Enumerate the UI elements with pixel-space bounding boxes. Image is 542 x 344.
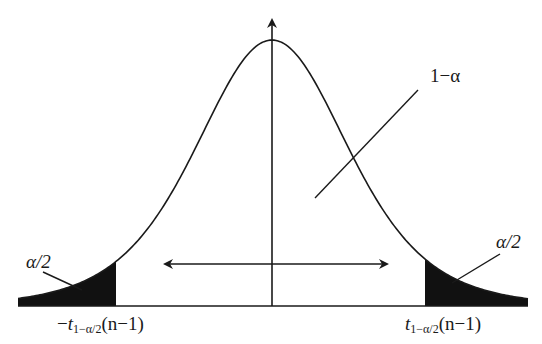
right-critical-arg: (n−1) — [439, 313, 481, 335]
right-tail-leader — [452, 254, 500, 283]
right-tail-label: α/2 — [496, 231, 521, 252]
right-critical-sub: 1−α/2 — [410, 322, 438, 336]
t-distribution-diagram: 1−α α/2 α/2 −t1−α/2(n−1) t1−α/2(n−1) — [0, 0, 542, 344]
left-critical-sub: 1−α/2 — [73, 322, 101, 336]
left-critical-sign: − — [57, 313, 68, 334]
right-critical-value-label: t1−α/2(n−1) — [405, 313, 481, 336]
left-tail-label: α/2 — [26, 251, 51, 272]
left-critical-arg: (n−1) — [101, 313, 143, 335]
right-tail-region — [425, 259, 528, 306]
left-critical-value-label: −t1−α/2(n−1) — [57, 313, 144, 336]
center-area-label: 1−α — [430, 65, 460, 86]
left-tail-leader — [43, 272, 82, 290]
